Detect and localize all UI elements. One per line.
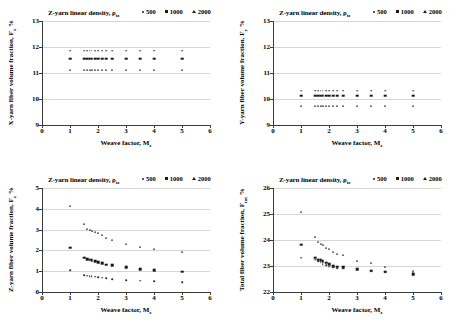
x-tick-label: 2 [327,125,331,135]
data-point-500 [332,90,334,92]
x-axis-label: Weave factor, Mz [273,306,441,315]
data-point-2000 [111,239,113,241]
data-point-500 [322,263,324,265]
legend-marker-triangle [192,177,196,180]
data-point-500 [125,279,127,281]
x-tick-label: 5 [411,292,415,302]
x-tick-label: 2 [96,292,100,302]
legend-entry-label: 1000 [170,8,183,15]
data-point-500 [370,90,372,92]
data-point-500 [314,90,316,92]
legend-entry-500[interactable]: 500 [142,8,156,15]
x-tick-label: 3 [355,125,359,135]
data-point-1000 [69,247,72,250]
legend-entry-2000[interactable]: 2000 [423,8,442,15]
data-point-500 [342,268,344,270]
data-point-1000 [91,259,94,262]
data-point-500 [314,259,316,261]
data-point-2000 [384,265,386,267]
data-point-1000 [181,57,184,60]
x-axis-label: Weave factor, Mz [42,306,210,315]
x-tick-label: 6 [439,292,443,302]
data-point-500 [181,50,183,52]
y-axis-line [42,188,43,292]
y-tick-label: 26 [263,184,273,192]
gridline-horizontal [273,73,441,74]
data-point-500 [337,90,339,92]
legend-entry-1000[interactable]: 1000 [165,175,183,182]
data-point-2000 [322,105,324,107]
x-tick-label: 6 [208,292,212,302]
gridline-horizontal [42,209,210,210]
data-point-2000 [332,250,334,252]
data-point-500 [69,269,71,271]
data-point-2000 [125,243,127,245]
x-tick-label: 4 [152,125,156,135]
data-point-1000 [300,243,303,246]
data-point-2000 [314,105,316,107]
data-point-500 [111,278,113,280]
y-tick-label: 13 [32,17,42,25]
data-point-500 [139,50,141,52]
data-point-2000 [412,105,414,107]
data-point-1000 [153,57,156,60]
data-point-500 [153,50,155,52]
data-point-2000 [139,69,141,71]
legend-entry-label: 500 [377,8,387,15]
x-tick-label: 3 [124,292,128,302]
y-axis-label: Y-yarn fiber volume fraction, Fy % [238,13,247,133]
data-point-2000 [83,69,85,71]
data-point-500 [153,281,155,283]
data-point-1000 [125,266,128,269]
data-point-1000 [83,57,86,60]
legend-marker-triangle [423,10,427,13]
x-tick-label: 1 [68,125,72,135]
y-axis-label: Total fiber volume fraction, Ftot % [238,180,247,300]
x-tick-label: 1 [68,292,72,302]
data-point-2000 [181,69,183,71]
data-point-1000 [300,95,303,98]
data-point-2000 [139,246,141,248]
data-point-1000 [91,57,94,60]
data-point-2000 [153,69,155,71]
data-point-2000 [370,262,372,264]
legend-title: Z-yarn linear density, ρtz [48,176,119,185]
y-tick-label: 12 [263,43,273,51]
chart-panel-y-yarn: Z-yarn linear density, ρtz50010002000910… [231,0,462,167]
data-point-500 [384,271,386,273]
data-point-1000 [336,95,339,98]
gridline-horizontal [273,240,441,241]
data-point-500 [181,281,183,283]
data-point-500 [322,90,324,92]
data-point-500 [91,50,93,52]
legend-entry-2000[interactable]: 2000 [423,175,442,182]
data-point-2000 [111,69,113,71]
data-point-500 [91,276,93,278]
data-point-2000 [314,236,316,238]
data-point-500 [83,50,85,52]
data-point-1000 [412,95,415,98]
legend-entry-label: 2000 [198,8,211,15]
legend-entry-1000[interactable]: 1000 [396,175,414,182]
x-axis-line [42,125,210,126]
gridline-horizontal [273,47,441,48]
x-axis-line [42,292,210,293]
legend-marker-square [396,10,399,13]
legend-entry-2000[interactable]: 2000 [192,8,211,15]
legend-entry-1000[interactable]: 1000 [165,8,183,15]
data-point-500 [97,50,99,52]
data-point-1000 [153,269,156,272]
legend-entry-500[interactable]: 500 [142,175,156,182]
legend-entry-500[interactable]: 500 [373,8,387,15]
x-tick-label: 6 [439,125,443,135]
x-tick-label: 0 [271,125,275,135]
data-point-1000 [356,95,359,98]
y-axis-line [42,21,43,125]
legend-entry-2000[interactable]: 2000 [192,175,211,182]
legend-entry-label: 1000 [401,175,414,182]
legend-entry-1000[interactable]: 1000 [396,8,414,15]
legend-entry-500[interactable]: 500 [373,175,387,182]
legend-marker-dot [142,11,144,13]
data-point-500 [356,90,358,92]
legend-marker-square [396,177,399,180]
